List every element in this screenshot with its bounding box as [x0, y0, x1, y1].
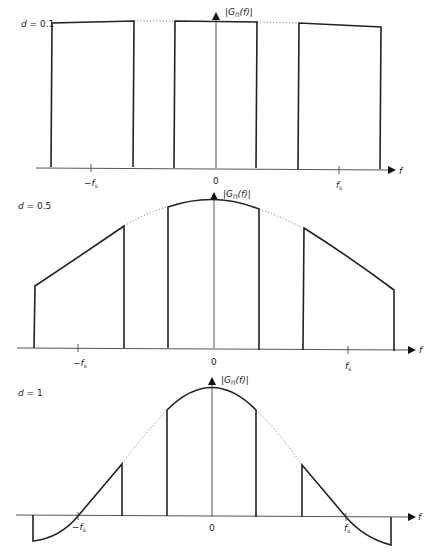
spectral-pulse-center [168, 199, 259, 350]
tick-label-zero: 0 [213, 176, 219, 186]
duty-label: d = 0.5 [18, 201, 51, 211]
spectral-pulse-right [303, 228, 394, 351]
tick-label-zero: 0 [211, 357, 217, 367]
spectral-pulse-left [34, 226, 124, 348]
spectral-pulse-left [51, 21, 134, 167]
panel-d-0-5: d = 0.5 |GΠ(f)| f −fs 0 fs [17, 189, 424, 372]
y-axis-label: |GΠ(f)| [223, 189, 251, 200]
sampled-spectrum-diagram: d = 0.1 |GΠ(f)| f −fs 0 fs d = 0.5 |GΠ(f… [0, 0, 435, 554]
duty-label: d = 0.1 [21, 19, 54, 29]
x-axis-label: f [399, 166, 404, 176]
envelope-dotted [256, 410, 302, 465]
y-axis-label: |GΠ(f)| [221, 375, 249, 386]
envelope-dotted [124, 207, 167, 226]
spectral-pulse-right [298, 23, 381, 169]
x-axis-label: f [419, 345, 424, 355]
spectral-pulse-center [174, 21, 257, 168]
panel-d-1: d = 1 |GΠ(f)| f −fs 0 fs [16, 375, 423, 545]
tick-label-fs: fs [336, 180, 342, 191]
tick-label-zero: 0 [209, 523, 215, 533]
duty-label: d = 1 [18, 388, 43, 398]
tick-label-minus-fs: −fs [73, 358, 87, 369]
envelope-dotted [259, 209, 303, 228]
envelope-dotted [122, 410, 167, 463]
tick-label-fs: fs [344, 523, 350, 534]
tick-label-fs: fs [345, 361, 351, 372]
f-axis [17, 348, 412, 350]
x-axis-label: f [418, 512, 423, 522]
spectral-pulse-center [167, 388, 256, 518]
panel-d-0-1: d = 0.1 |GΠ(f)| f −fs 0 fs [21, 7, 404, 191]
envelope-dotted [257, 22, 298, 23]
tick-label-minus-fs: −fs [72, 522, 86, 533]
tick-label-minus-fs: −fs [84, 178, 98, 189]
y-axis-label: |GΠ(f)| [225, 7, 253, 18]
f-axis [16, 515, 412, 517]
